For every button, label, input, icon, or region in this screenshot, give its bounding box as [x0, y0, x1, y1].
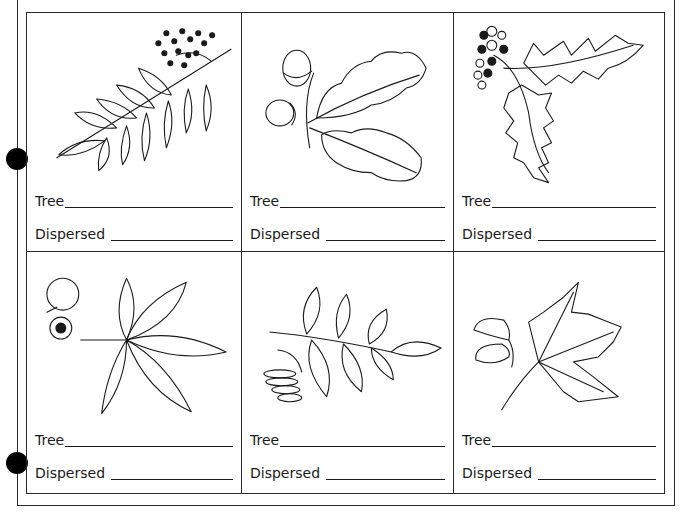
tree-label: Tree: [35, 432, 64, 448]
tree-answer-field[interactable]: Tree: [35, 193, 233, 209]
dispersed-label: Dispersed: [35, 465, 105, 481]
worksheet-cell-5: Tree Dispersed: [242, 252, 454, 493]
worksheet-cell-6: Tree Dispersed: [454, 252, 664, 493]
dispersed-answer-line[interactable]: [538, 465, 656, 480]
tree-answer-field[interactable]: Tree: [250, 193, 445, 209]
tree-label: Tree: [250, 432, 279, 448]
dispersed-answer-field[interactable]: Dispersed: [462, 465, 656, 481]
worksheet-cell-2: Tree Dispersed: [242, 13, 454, 252]
holly-leaf-with-berries-icon: [454, 13, 664, 193]
dispersed-label: Dispersed: [462, 465, 532, 481]
tree-identification-grid: Tree Dispersed Tree Dispersed: [26, 12, 665, 494]
tree-answer-field[interactable]: Tree: [250, 432, 445, 448]
dispersed-answer-field[interactable]: Dispersed: [35, 465, 233, 481]
dispersed-label: Dispersed: [35, 226, 105, 242]
oak-leaf-with-acorns-icon: [242, 13, 453, 193]
dispersed-answer-field[interactable]: Dispersed: [462, 226, 656, 242]
dispersed-answer-line[interactable]: [111, 465, 233, 480]
tree-label: Tree: [35, 193, 64, 209]
tree-label: Tree: [250, 193, 279, 209]
dispersed-label: Dispersed: [462, 226, 532, 242]
dispersed-answer-field[interactable]: Dispersed: [35, 226, 233, 242]
tree-answer-line[interactable]: [280, 193, 445, 208]
dispersed-answer-line[interactable]: [326, 465, 445, 480]
dispersed-answer-line[interactable]: [538, 226, 656, 241]
rowan-leaf-with-berries-icon: [27, 13, 241, 193]
ash-leaf-with-keys-icon: [242, 252, 453, 432]
tree-answer-line[interactable]: [280, 432, 445, 447]
binder-hole-bottom: [6, 452, 28, 474]
dispersed-label: Dispersed: [250, 226, 320, 242]
dispersed-answer-line[interactable]: [111, 226, 233, 241]
binder-hole-top: [6, 148, 28, 170]
sycamore-leaf-with-seed-icon: [454, 252, 664, 432]
horse-chestnut-leaf-with-conker-icon: [27, 252, 241, 432]
worksheet-cell-4: Tree Dispersed: [27, 252, 242, 493]
worksheet-cell-1: Tree Dispersed: [27, 13, 242, 252]
tree-answer-field[interactable]: Tree: [462, 432, 656, 448]
tree-answer-field[interactable]: Tree: [35, 432, 233, 448]
tree-label: Tree: [462, 193, 491, 209]
tree-answer-field[interactable]: Tree: [462, 193, 656, 209]
dispersed-answer-field[interactable]: Dispersed: [250, 465, 445, 481]
dispersed-answer-line[interactable]: [326, 226, 445, 241]
tree-answer-line[interactable]: [65, 432, 233, 447]
tree-answer-line[interactable]: [65, 193, 233, 208]
worksheet-cell-3: Tree Dispersed: [454, 13, 664, 252]
tree-answer-line[interactable]: [492, 193, 656, 208]
dispersed-label: Dispersed: [250, 465, 320, 481]
tree-label: Tree: [462, 432, 491, 448]
tree-answer-line[interactable]: [492, 432, 656, 447]
dispersed-answer-field[interactable]: Dispersed: [250, 226, 445, 242]
